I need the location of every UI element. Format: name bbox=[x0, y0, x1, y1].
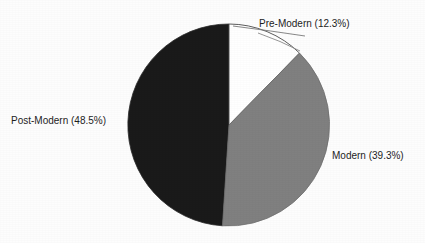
pie-chart-figure: Pre-Modern (12.3%) Modern (39.3%) Post-M… bbox=[0, 0, 425, 243]
pie-slices bbox=[128, 24, 330, 226]
pie-slice-post-modern bbox=[128, 24, 229, 226]
slice-label-modern: Modern (39.3%) bbox=[332, 150, 404, 162]
slice-label-pre-modern: Pre-Modern (12.3%) bbox=[259, 18, 350, 30]
slice-label-post-modern: Post-Modern (48.5%) bbox=[11, 115, 106, 127]
